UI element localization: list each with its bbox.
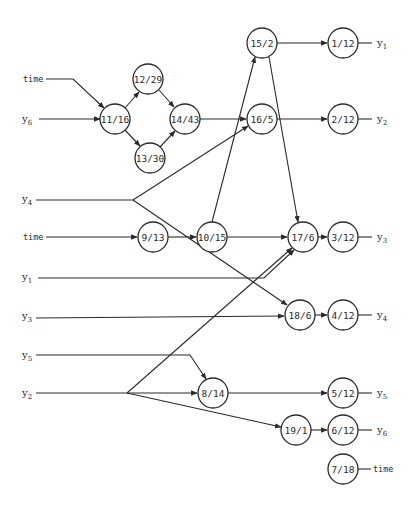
edge-time-to-11-16: [46, 79, 104, 108]
output-label: y4: [376, 309, 388, 323]
node-label: 11/16: [101, 114, 130, 125]
graph-node: 17/6: [288, 222, 318, 252]
node-label: 6/12: [332, 425, 355, 436]
output-label: y2: [376, 113, 387, 127]
computation-graph-diagram: 15/21/1212/2911/1614/4316/52/1213/309/13…: [0, 0, 415, 508]
node-label: 8/14: [202, 388, 225, 399]
output-label: y6: [376, 424, 388, 438]
node-label: 10/15: [198, 232, 227, 243]
output-labels: y1y2y3y4y5y6time: [373, 37, 393, 474]
graph-node: 4/12: [328, 300, 358, 330]
graph-node: 1/12: [328, 28, 358, 58]
output-label: time: [373, 464, 393, 474]
graph-node: 11/16: [100, 104, 130, 134]
graph-node: 13/30: [135, 143, 165, 173]
graph-node: 8/14: [198, 378, 228, 408]
input-label: y6: [21, 113, 33, 127]
node-label: 14/43: [171, 114, 200, 125]
graph-node: 10/15: [197, 222, 227, 252]
node-label: 2/12: [332, 114, 355, 125]
output-label: y5: [376, 387, 387, 401]
output-label: y1: [376, 37, 387, 51]
graph-node: 12/29: [133, 64, 163, 94]
node-label: 12/29: [134, 74, 163, 85]
edge-15-2-to-17-6: [269, 57, 298, 222]
graph-node: 9/13: [138, 222, 168, 252]
graph-node: 19/1: [281, 415, 311, 445]
graph-node: 3/12: [328, 222, 358, 252]
edge-y5-to-8-14: [36, 355, 206, 379]
node-label: 19/1: [285, 425, 308, 436]
output-label: y3: [376, 231, 387, 245]
node-label: 17/6: [292, 232, 315, 243]
node-label: 1/12: [332, 38, 355, 49]
node-label: 4/12: [332, 310, 355, 321]
edge-11-16-to-12-29: [125, 92, 139, 108]
input-labels: timey6y4timey1y3y5y2: [21, 74, 43, 401]
node-label: 18/6: [289, 310, 312, 321]
graph-node: 6/12: [328, 415, 358, 445]
edge-13-30-to-14-43: [160, 131, 175, 147]
input-label: y1: [21, 271, 32, 285]
graph-node: 14/43: [170, 104, 200, 134]
input-label: y3: [21, 310, 32, 324]
graph-node: 16/5: [247, 104, 277, 134]
node-label: 7/18: [332, 464, 355, 475]
node-label: 9/13: [142, 232, 165, 243]
input-label: time: [23, 232, 43, 242]
edge-y1-to-17-6: [38, 250, 294, 278]
edge-y2-to-17-6: [127, 248, 292, 393]
node-label: 13/30: [136, 153, 165, 164]
input-label: y4: [21, 193, 33, 207]
graph-node: 18/6: [285, 300, 315, 330]
edge-11-16-to-13-30: [125, 130, 140, 146]
graph-node: 2/12: [328, 104, 358, 134]
node-label: 3/12: [332, 232, 355, 243]
node-label: 5/12: [332, 388, 355, 399]
edge-y3-to-18-6: [36, 316, 284, 318]
node-label: 15/2: [251, 38, 274, 49]
graph-node: 5/12: [328, 378, 358, 408]
input-label: time: [23, 74, 43, 84]
node-label: 16/5: [251, 114, 274, 125]
graph-node: 7/18: [328, 454, 358, 484]
input-label: y5: [21, 349, 32, 363]
graph-node: 15/2: [247, 28, 277, 58]
edge-12-29-to-14-43: [159, 90, 174, 107]
input-label: y2: [21, 387, 32, 401]
edge-10-15-to-15-2: [212, 57, 255, 222]
